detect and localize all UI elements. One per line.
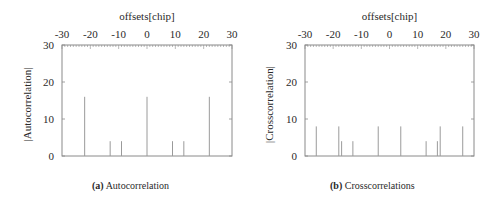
y-tick-label: 30 <box>286 39 298 51</box>
caption-autocorrelation: (a) Autocorrelation <box>92 180 169 191</box>
figure: -30-20-100102030offsets[chip]0102030|Aut… <box>0 0 501 206</box>
y-axis-label: |Crosscorrelation| <box>263 66 275 143</box>
x-tick-label: 10 <box>412 28 424 40</box>
y-tick-label: 10 <box>43 113 55 125</box>
x-tick-label: -10 <box>354 28 369 40</box>
x-tick-label: 20 <box>440 28 452 40</box>
caption-text: Autocorrelation <box>106 180 169 191</box>
y-tick-label: 0 <box>292 150 298 162</box>
x-tick-label: 10 <box>170 28 182 40</box>
x-tick-label: -10 <box>111 28 126 40</box>
y-tick-label: 0 <box>49 150 55 162</box>
x-axis-label: offsets[chip] <box>119 10 174 22</box>
x-tick-label: 20 <box>198 28 210 40</box>
y-tick-label: 10 <box>286 113 298 125</box>
autocorrelation-plot: -30-20-100102030offsets[chip]0102030|Aut… <box>21 10 238 162</box>
y-axis-label: |Autocorrelation| <box>21 67 33 141</box>
caption-tag: (a) <box>92 180 104 191</box>
x-tick-label: -30 <box>55 28 70 40</box>
plot-frame <box>305 45 474 156</box>
crosscorrelation-plot: -30-20-100102030offsets[chip]0102030|Cro… <box>263 10 480 162</box>
x-axis-label: offsets[chip] <box>362 10 417 22</box>
x-tick-label: 0 <box>387 28 393 40</box>
caption-crosscorrelation: (b) Crosscorrelations <box>330 180 415 191</box>
x-tick-label: 30 <box>469 28 481 40</box>
y-tick-label: 20 <box>286 76 298 88</box>
caption-tag: (b) <box>330 180 342 191</box>
x-tick-label: -30 <box>298 28 313 40</box>
caption-text: Crosscorrelations <box>345 180 415 191</box>
x-tick-label: -20 <box>83 28 98 40</box>
y-tick-label: 30 <box>43 39 55 51</box>
x-tick-label: -20 <box>326 28 341 40</box>
x-tick-label: 30 <box>227 28 239 40</box>
y-tick-label: 20 <box>43 76 55 88</box>
x-tick-label: 0 <box>144 28 150 40</box>
